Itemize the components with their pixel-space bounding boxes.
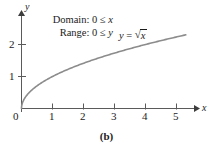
figure-caption: (b) <box>0 130 213 142</box>
y-tick-label-1: 1 <box>9 71 15 82</box>
curve-equation-label: y = √ x <box>119 29 147 42</box>
radical-expression: √ x <box>135 29 147 42</box>
domain-range-annotation: Domain: 0 ≤ x Range: 0 ≤ y <box>33 13 113 39</box>
x-tick-label-5: 5 <box>173 111 179 122</box>
x-tick-label-1: 1 <box>49 111 55 122</box>
x-tick-label-4: 4 <box>142 111 148 122</box>
x-tick-label-3: 3 <box>111 111 117 122</box>
figure-container: 0 1 2 3 4 5 1 2 x y Domain: 0 ≤ x Range:… <box>0 0 213 151</box>
radical-sign-icon: √ <box>135 28 141 40</box>
domain-value: 0 ≤ <box>92 14 106 25</box>
y-axis-arrow-icon <box>18 10 25 16</box>
equation-lhs: y <box>119 30 124 41</box>
domain-line: Domain: 0 ≤ x <box>33 13 113 26</box>
x-axis-label: x <box>202 103 206 113</box>
domain-variable: x <box>108 14 113 25</box>
axis-origin-label: 0 <box>13 111 19 122</box>
x-tick-label-2: 2 <box>80 111 86 122</box>
domain-label: Domain: <box>53 14 90 25</box>
range-label: Range: <box>60 27 90 38</box>
range-line: Range: 0 ≤ y <box>33 26 113 39</box>
range-value: 0 ≤ <box>92 27 106 38</box>
sqrt-curve <box>22 35 186 109</box>
y-tick-label-2: 2 <box>9 39 15 50</box>
range-variable: y <box>108 27 113 38</box>
x-axis-arrow-icon <box>194 105 200 112</box>
equation-equals: = <box>126 30 132 41</box>
y-axis-label: y <box>25 2 29 12</box>
